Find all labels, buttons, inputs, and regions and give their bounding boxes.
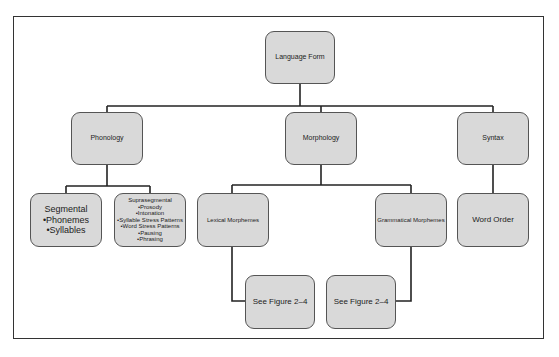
node-grammatical-reference-label: See Figure 2–4 xyxy=(334,297,389,306)
node-grammatical-reference: See Figure 2–4 xyxy=(326,275,396,329)
segmental-item: •Syllables xyxy=(46,225,85,235)
segmental-item: •Phonemes xyxy=(43,215,89,225)
suprasegmental-item: •Intonation xyxy=(136,210,164,217)
node-word-order-label: Word Order xyxy=(472,215,514,224)
node-grammatical-morphemes: Grammatical Morphemes xyxy=(375,193,447,247)
node-lexical-morphemes: Lexical Morphemes xyxy=(197,193,269,247)
node-morphology: Morphology xyxy=(285,112,357,165)
suprasegmental-item: •Pausing xyxy=(138,230,162,237)
suprasegmental-item: •Word Stress Patterns xyxy=(120,223,179,230)
suprasegmental-item: •Prosody xyxy=(138,204,162,211)
node-lexical-reference-label: See Figure 2–4 xyxy=(253,297,308,306)
node-segmental: Segmental •Phonemes •Syllables xyxy=(30,193,102,247)
node-phonology: Phonology xyxy=(71,112,143,165)
suprasegmental-item: •Phrasing xyxy=(137,236,163,243)
node-language-form-label: Language Form xyxy=(275,53,324,61)
node-morphology-label: Morphology xyxy=(303,134,340,142)
connector-grammatical-ref xyxy=(395,247,411,301)
segmental-title: Segmental xyxy=(44,204,87,214)
suprasegmental-title: Suprasegmental xyxy=(128,197,172,204)
node-syntax-label: Syntax xyxy=(482,134,503,142)
suprasegmental-item: •Syllable Stress Patterns xyxy=(117,217,183,224)
node-language-form: Language Form xyxy=(265,31,335,84)
node-grammatical-morphemes-label: Grammatical Morphemes xyxy=(377,217,444,224)
node-word-order: Word Order xyxy=(457,193,529,247)
node-syntax: Syntax xyxy=(457,112,529,165)
node-lexical-reference: See Figure 2–4 xyxy=(245,275,315,329)
node-suprasegmental: Suprasegmental •Prosody •Intonation •Syl… xyxy=(114,193,186,247)
node-lexical-morphemes-label: Lexical Morphemes xyxy=(207,217,259,224)
node-phonology-label: Phonology xyxy=(90,134,123,142)
connector-lexical-ref xyxy=(232,247,245,301)
